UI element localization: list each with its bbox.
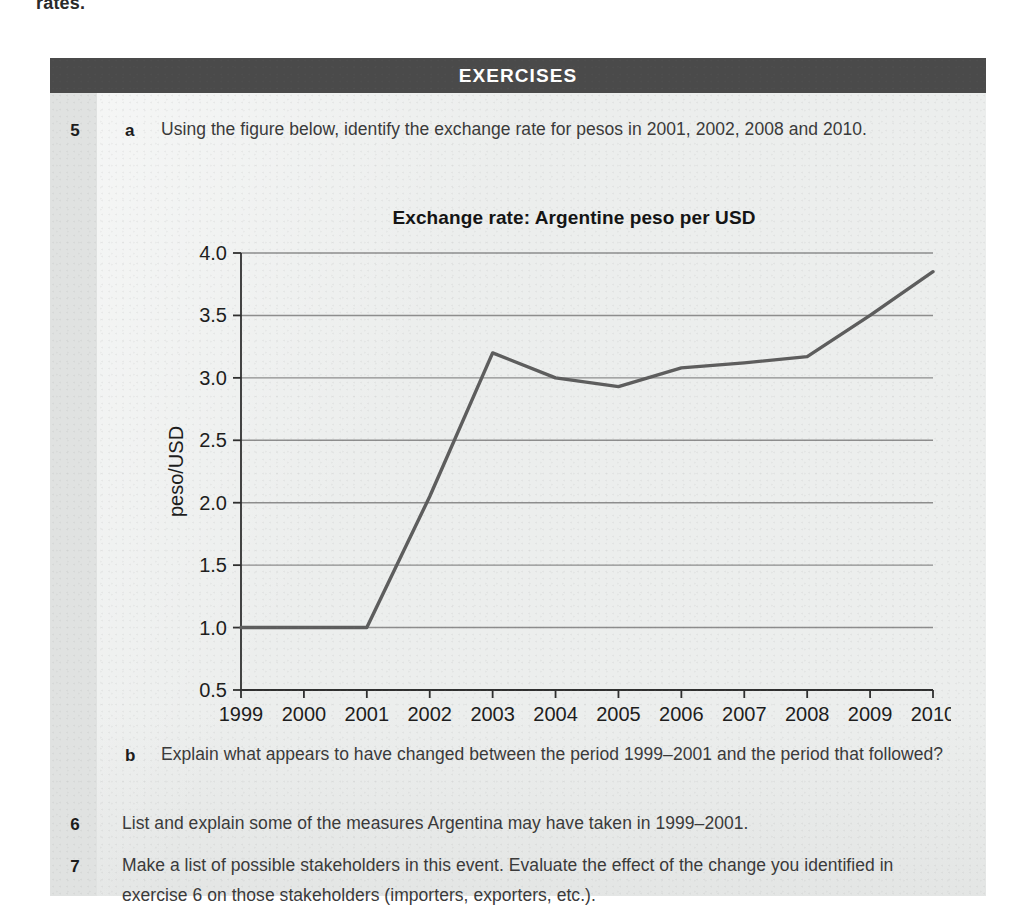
x-axis-tick-label: 2005	[596, 703, 641, 725]
exercise-letter-b: b	[125, 746, 145, 766]
y-axis-tick-label: 0.5	[199, 679, 227, 701]
page-running-text: rates.	[36, 0, 85, 14]
x-axis-tick-label: 2001	[345, 703, 390, 725]
exchange-rate-chart: Exchange rate: Argentine peso per USD 0.…	[161, 181, 951, 736]
x-axis-tick-label: 2000	[282, 703, 327, 725]
y-axis-tick-label: 2.0	[199, 492, 227, 514]
y-axis-tick-label: 3.5	[199, 304, 227, 326]
exercise-number-7: 7	[58, 857, 92, 877]
exercises-header-title: EXERCISES	[459, 65, 578, 87]
y-axis-tick-label: 2.5	[199, 429, 227, 451]
exercise-text-5b: Explain what appears to have changed bet…	[161, 739, 951, 769]
y-axis-tick-label: 3.0	[199, 367, 227, 389]
x-axis-tick-label: 2002	[407, 703, 452, 725]
x-axis-tick-label: 2003	[470, 703, 515, 725]
chart-data-line	[241, 272, 933, 628]
y-axis-tick-label: 1.5	[199, 554, 227, 576]
chart-title: Exchange rate: Argentine peso per USD	[161, 207, 951, 229]
y-axis-tick-label: 4.0	[199, 242, 227, 264]
exercise-number-6: 6	[58, 815, 92, 835]
x-axis-tick-label: 1999	[219, 703, 264, 725]
exercise-letter-a: a	[125, 121, 145, 141]
x-axis-tick-label: 2006	[659, 703, 704, 725]
x-axis-tick-label: 2008	[785, 703, 830, 725]
chart-svg: 0.51.01.52.02.53.03.54.01999200020012002…	[161, 241, 951, 736]
exercise-text-6: List and explain some of the measures Ar…	[122, 808, 942, 838]
x-axis-tick-label: 2004	[533, 703, 578, 725]
exercises-header: EXERCISES	[50, 58, 986, 93]
y-axis-tick-label: 1.0	[199, 617, 227, 639]
exercise-number-5: 5	[58, 121, 92, 141]
exercise-text-5a: Using the figure below, identify the exc…	[161, 114, 921, 144]
y-axis-label: peso/USD	[165, 426, 187, 517]
x-axis-tick-label: 2010	[911, 703, 951, 725]
x-axis-tick-label: 2009	[848, 703, 893, 725]
x-axis-tick-label: 2007	[722, 703, 767, 725]
exercises-panel: EXERCISES 5 a Using the figure below, id…	[50, 58, 986, 896]
chart-plot-area: 0.51.01.52.02.53.03.54.01999200020012002…	[161, 241, 951, 736]
exercises-body: 5 a Using the figure below, identify the…	[50, 93, 986, 896]
exercise-text-7: Make a list of possible stakeholders in …	[122, 850, 952, 910]
